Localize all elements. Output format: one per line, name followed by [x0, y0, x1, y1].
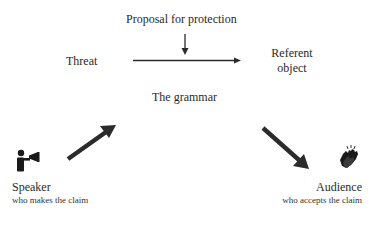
- down-arrow-icon: [182, 34, 189, 55]
- audience-subtitle: who accepts the claim: [282, 195, 362, 205]
- audience-title: Audience: [316, 180, 362, 195]
- threat-to-referent-arrow-icon: [133, 58, 241, 64]
- speaker-arrow-icon: [68, 125, 116, 159]
- speaker-subtitle: who makes the claim: [12, 195, 88, 205]
- speaker-title: Speaker: [12, 180, 51, 195]
- clapping-hands-icon: [340, 145, 358, 168]
- audience-arrow-icon: [263, 128, 309, 169]
- megaphone-person-icon: [17, 150, 40, 172]
